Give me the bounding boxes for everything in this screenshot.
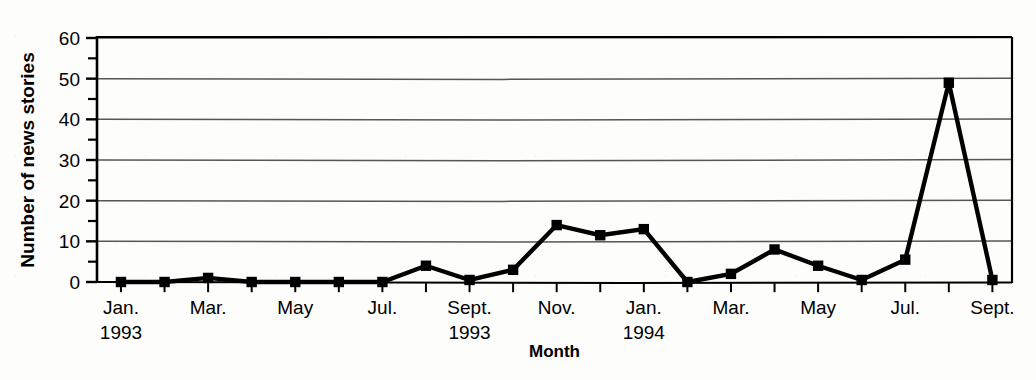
svg-text:Jan.: Jan. — [103, 297, 139, 318]
svg-text:May: May — [277, 297, 313, 318]
svg-text:Jan.: Jan. — [626, 297, 662, 318]
svg-text:30: 30 — [59, 150, 80, 171]
chart-figure: 0102030405060 Jan.1993Mar.MayJul.Sept.19… — [0, 0, 1036, 380]
y-axis-title: Number of news stories — [17, 52, 38, 267]
svg-text:Mar.: Mar. — [712, 297, 749, 318]
svg-text:0: 0 — [69, 272, 80, 293]
x-tick-labels: Jan.1993Mar.MayJul.Sept.1993Nov.Jan.1994… — [100, 297, 1015, 343]
svg-text:40: 40 — [59, 109, 80, 130]
svg-text:50: 50 — [59, 69, 80, 90]
data-series-line — [121, 83, 992, 282]
svg-text:10: 10 — [59, 231, 80, 252]
svg-text:1994: 1994 — [623, 322, 666, 343]
svg-text:Month: Month — [529, 342, 580, 361]
data-series-markers — [116, 78, 998, 288]
svg-text:Number of news stories: Number of news stories — [17, 52, 38, 267]
y-major-tick-group — [86, 38, 97, 282]
svg-text:60: 60 — [59, 28, 80, 49]
svg-text:20: 20 — [59, 191, 80, 212]
svg-text:Jul.: Jul. — [890, 297, 920, 318]
gridlines-group — [97, 38, 1012, 242]
svg-text:Mar.: Mar. — [190, 297, 227, 318]
y-tick-labels: 0102030405060 — [59, 28, 80, 293]
svg-text:May: May — [800, 297, 836, 318]
x-axis-title: Month — [529, 342, 580, 361]
svg-text:Jul.: Jul. — [368, 297, 398, 318]
svg-text:Nov.: Nov. — [538, 297, 576, 318]
svg-text:Sept.: Sept. — [447, 297, 491, 318]
line-chart: 0102030405060 Jan.1993Mar.MayJul.Sept.19… — [0, 0, 1036, 380]
svg-text:Sept.: Sept. — [970, 297, 1014, 318]
svg-text:1993: 1993 — [100, 322, 142, 343]
svg-text:1993: 1993 — [448, 322, 490, 343]
